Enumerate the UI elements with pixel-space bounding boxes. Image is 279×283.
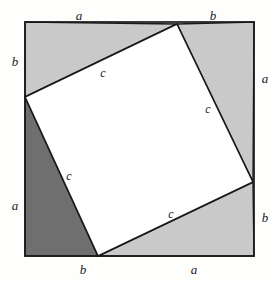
label-left-a: a bbox=[12, 199, 19, 212]
pythagorean-diagram: a b b a a b b a c c c c bbox=[0, 0, 279, 283]
label-right-b: b bbox=[262, 211, 269, 224]
label-c-left: c bbox=[66, 170, 71, 182]
label-c-right: c bbox=[205, 103, 210, 115]
label-top-a: a bbox=[76, 9, 83, 22]
diagram-canvas bbox=[0, 0, 279, 283]
label-left-b: b bbox=[12, 55, 19, 68]
label-c-top: c bbox=[100, 67, 105, 79]
label-bottom-b: b bbox=[80, 263, 87, 276]
label-c-bottom: c bbox=[168, 208, 173, 220]
label-top-b: b bbox=[210, 9, 217, 22]
label-bottom-a: a bbox=[191, 263, 198, 276]
label-right-a: a bbox=[262, 72, 269, 85]
